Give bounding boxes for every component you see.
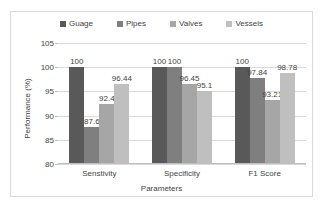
bar-slot: 98.78 (280, 43, 295, 164)
bar-groups: 10087.692.496.44Senstivity10010096.4595.… (58, 43, 306, 164)
bar-slot: 100 (167, 43, 182, 164)
bar-value-label: 100 (70, 58, 83, 66)
bar-vessels-f1-score[interactable]: 98.78 (280, 73, 295, 164)
bar-slot: 93.21 (265, 43, 280, 164)
bar-vessels-senstivity[interactable]: 96.44 (114, 84, 129, 164)
legend-item-pipes[interactable]: Pipes (117, 20, 146, 28)
bar-group-specificity: 10010096.4595.1Specificity (141, 43, 224, 164)
legend-swatch-guage (60, 21, 66, 27)
bar-valves-senstivity[interactable]: 92.4 (99, 104, 114, 164)
bar-group-f1-score: 10097.8493.2198.78F1 Score (223, 43, 306, 164)
bar-slot: 96.44 (114, 43, 129, 164)
legend-swatch-pipes (117, 21, 123, 27)
bar-value-label: 100 (168, 58, 181, 66)
bar-slot: 87.6 (84, 43, 99, 164)
y-tick-label-90: 90 (45, 111, 54, 120)
x-axis-title: Parameters (11, 184, 312, 193)
legend-swatch-valves (170, 21, 176, 27)
x-tick-label-specificity: Specificity (141, 169, 224, 178)
bar-slot: 97.84 (250, 43, 265, 164)
bar-value-label: 92.4 (99, 95, 115, 103)
legend-item-valves[interactable]: Valves (170, 20, 202, 28)
bar-valves-specificity[interactable]: 96.45 (182, 84, 197, 164)
y-tick-label-105: 105 (41, 39, 54, 48)
y-tick-label-80: 80 (45, 160, 54, 169)
y-tick-mark-80 (55, 164, 58, 165)
bar-pipes-senstivity[interactable]: 87.6 (84, 127, 99, 164)
bar-value-label: 98.78 (277, 64, 297, 72)
bar-group-senstivity: 10087.692.496.44Senstivity (58, 43, 141, 164)
chart-legend: Guage Pipes Valves Vessels (11, 20, 312, 28)
legend-item-guage[interactable]: Guage (60, 20, 93, 28)
bar-valves-f1-score[interactable]: 93.21 (265, 100, 280, 164)
bar-value-label: 96.44 (112, 75, 132, 83)
x-tick-label-senstivity: Senstivity (58, 169, 141, 178)
legend-label-guage: Guage (69, 20, 93, 28)
legend-swatch-vessels (226, 21, 232, 27)
bar-value-label: 87.6 (84, 118, 100, 126)
x-axis-line (58, 163, 306, 164)
bar-guage-senstivity[interactable]: 100 (69, 67, 84, 164)
bar-guage-f1-score[interactable]: 100 (235, 67, 250, 164)
bar-slot: 100 (69, 43, 84, 164)
legend-label-pipes: Pipes (126, 20, 146, 28)
x-tick-label-f1-score: F1 Score (223, 169, 306, 178)
bar-slot: 100 (152, 43, 167, 164)
legend-label-vessels: Vessels (235, 20, 263, 28)
y-tick-label-85: 85 (45, 135, 54, 144)
legend-label-valves: Valves (179, 20, 202, 28)
bar-slot: 92.4 (99, 43, 114, 164)
y-axis-title: Performance (%) (23, 54, 32, 164)
bar-vessels-specificity[interactable]: 95.1 (197, 91, 212, 164)
bar-value-label: 100 (235, 58, 248, 66)
y-tick-label-95: 95 (45, 87, 54, 96)
bar-value-label: 100 (153, 58, 166, 66)
plot-area: 80859095100105 10087.692.496.44Senstivit… (58, 43, 306, 164)
gridline-80 (58, 164, 306, 165)
bar-slot: 95.1 (197, 43, 212, 164)
bar-slot: 100 (235, 43, 250, 164)
bar-slot: 96.45 (182, 43, 197, 164)
y-tick-label-100: 100 (41, 63, 54, 72)
bar-guage-specificity[interactable]: 100 (152, 67, 167, 164)
bar-value-label: 95.1 (197, 82, 213, 90)
legend-item-vessels[interactable]: Vessels (226, 20, 263, 28)
chart-container: Guage Pipes Valves Vessels Performance (… (10, 11, 313, 197)
